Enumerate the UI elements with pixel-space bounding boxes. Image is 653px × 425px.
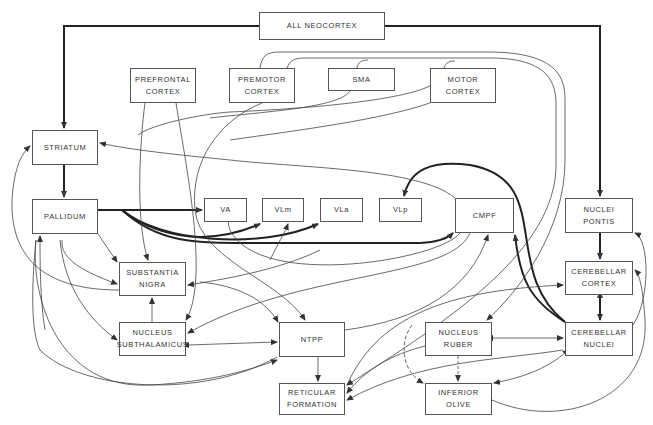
node-label: VLa [334, 204, 349, 216]
node-premotor: PREMOTORCORTEX [229, 68, 295, 103]
edge-cortex-striatum [100, 143, 455, 198]
node-label: NUCLEUS [132, 327, 172, 339]
edge-cortical-ribbon-1 [260, 52, 565, 160]
node-striatum: STRIATUM [32, 130, 98, 165]
edge-cortical-ribbon-4 [444, 61, 455, 68]
node-label: FORMATION [287, 399, 337, 411]
node-reticular: RETICULARFORMATION [279, 383, 345, 415]
node-va: VA [204, 198, 247, 222]
node-label: VA [220, 204, 231, 216]
node-pontis: NUCLEIPONTIS [565, 198, 633, 233]
node-label: SUBSTANTIA [126, 267, 179, 279]
node-label: OLIVE [446, 399, 471, 411]
node-label: NUCLEUS [438, 327, 478, 339]
edge-cortical-ribbon-3 [357, 60, 368, 68]
node-label: CEREBELLAR [571, 327, 627, 339]
edge-motor-striatum [230, 103, 430, 140]
node-label: PALLIDUM [44, 211, 86, 223]
node-label: NUCLEI [583, 339, 614, 351]
node-label: CMPF [473, 210, 497, 222]
node-vlp: VLp [379, 198, 422, 222]
edge-cmpf-subthal [188, 233, 470, 333]
edge-ntpp-nigra [188, 250, 320, 285]
node-label: NUCLEI [583, 204, 614, 216]
thin-edges [12, 52, 646, 411]
node-vlm: VLm [262, 198, 304, 222]
edge-pallidum-nigra-arc [62, 240, 117, 284]
edge-nigra-ntpp [200, 282, 278, 322]
node-label: CORTEX [245, 86, 280, 98]
edge-subthal-pallidum [40, 236, 45, 330]
edge-prefrontal-nigra [140, 103, 148, 260]
node-label: PREMOTOR [238, 74, 286, 86]
node-label: RUBER [444, 339, 473, 351]
node-label: CORTEX [146, 86, 181, 98]
node-label: RETICULAR [288, 387, 336, 399]
node-label: CORTEX [582, 278, 617, 290]
node-motor: MOTORCORTEX [430, 68, 496, 103]
node-neocortex: ALL NEOCORTEX [259, 12, 385, 40]
node-label: STRIATUM [44, 142, 87, 154]
node-label: MOTOR [448, 74, 479, 86]
edge-pallidum-nigra [98, 234, 117, 262]
node-ntpp: NTPP [279, 322, 345, 357]
node-label: SUBTHALAMICUS [117, 339, 189, 351]
node-pallidum: PALLIDUM [32, 199, 98, 234]
node-vla: VLa [320, 198, 363, 222]
node-sma: SMA [328, 68, 395, 91]
node-label: PREFRONTAL [135, 74, 191, 86]
node-subthal: NUCLEUSSUBTHALAMICUS [119, 322, 186, 356]
node-label: CORTEX [446, 86, 481, 98]
node-cmpf: CMPF [455, 198, 514, 233]
node-nigra: SUBSTANTIANIGRA [119, 262, 186, 296]
node-label: NTPP [301, 334, 323, 346]
node-cbcortex: CEREBELLARCORTEX [565, 261, 633, 295]
node-label: ALL NEOCORTEX [287, 20, 357, 32]
node-label: VLp [393, 204, 408, 216]
node-label: CEREBELLAR [571, 266, 627, 278]
edge-ntpp-cmpf [345, 235, 488, 330]
node-ruber: NUCLEUSRUBER [425, 322, 492, 356]
node-prefrontal: PREFRONTALCORTEX [130, 68, 196, 103]
node-label: SMA [352, 74, 370, 86]
edge-ruber-reticular [347, 346, 425, 393]
node-cbnuclei: CEREBELLARNUCLEI [565, 322, 633, 356]
node-label: NIGRA [139, 279, 166, 291]
edge-subthal-ntpp [188, 342, 277, 345]
node-label: PONTIS [583, 216, 615, 228]
edge-neocortex-pontis [385, 26, 600, 196]
node-olive: INFERIOROLIVE [425, 383, 492, 415]
node-label: INFERIOR [438, 387, 479, 399]
edge-olive-loop [404, 325, 423, 383]
node-label: VLm [274, 204, 291, 216]
